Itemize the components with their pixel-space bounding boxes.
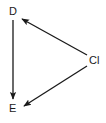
edge-cl-to-e [24,66,87,106]
node-label-d: D [9,6,17,17]
edge-cl-to-d [22,19,87,55]
node-label-cl: Cl [89,55,99,66]
diagram-canvas: D E Cl [0,0,106,123]
node-label-e: E [9,103,16,114]
